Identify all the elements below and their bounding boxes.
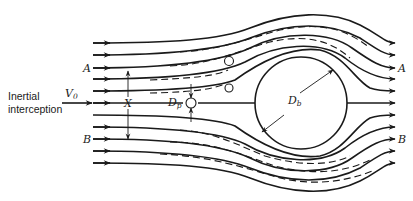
streamline-A-left-label: A bbox=[82, 62, 91, 75]
velocity-label: V0 bbox=[65, 87, 78, 101]
streamline-B-left-label: B bbox=[82, 133, 91, 146]
particle-center bbox=[186, 98, 196, 108]
caption-line2: interception bbox=[8, 103, 62, 115]
particle-upper bbox=[225, 84, 233, 92]
streamline-11 bbox=[93, 163, 395, 191]
capture-width-label: X bbox=[123, 97, 133, 110]
streamline-1 bbox=[93, 15, 395, 43]
particle-diameter-label: Dp bbox=[167, 96, 182, 110]
streamline-A-right-label: A bbox=[397, 62, 406, 75]
inertial-interception-diagram: Inertial interception V0 X Dp Db A B A B bbox=[0, 0, 413, 201]
streamlines bbox=[93, 15, 395, 191]
streamline-7 bbox=[93, 115, 395, 157]
caption-line1: Inertial bbox=[8, 90, 40, 102]
streamline-5 bbox=[93, 49, 395, 91]
streamline-B-right-label: B bbox=[397, 133, 406, 146]
particle-top bbox=[225, 57, 234, 66]
